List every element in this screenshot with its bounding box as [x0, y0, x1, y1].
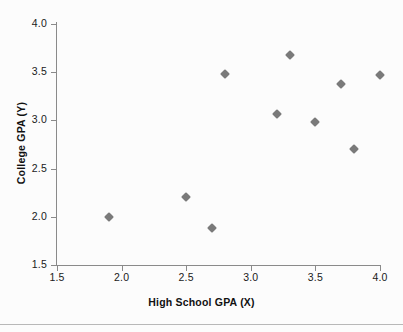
x-tick-label: 1.5	[40, 271, 74, 283]
y-tick-mark	[51, 120, 56, 121]
y-axis-line	[56, 22, 57, 266]
x-axis-title: High School GPA (X)	[0, 296, 403, 308]
x-tick-label: 2.0	[105, 271, 139, 283]
y-tick-mark	[51, 169, 56, 170]
y-tick-mark	[51, 72, 56, 73]
plot-area	[57, 24, 380, 265]
x-tick-label: 3.5	[298, 271, 332, 283]
y-axis-title: College GPA (Y)	[15, 68, 27, 218]
y-tick-label: 4.0	[17, 17, 47, 29]
y-tick-mark	[51, 24, 56, 25]
x-axis-line	[56, 265, 381, 266]
x-tick-label: 2.5	[169, 271, 203, 283]
footer-divider	[0, 324, 403, 325]
x-tick-label: 4.0	[363, 271, 397, 283]
scatter-plot-figure: 1.52.02.53.03.54.0 1.52.02.53.03.54.0 Co…	[0, 0, 403, 332]
x-tick-label: 3.0	[234, 271, 268, 283]
y-tick-mark	[51, 217, 56, 218]
y-tick-label: 1.5	[17, 258, 47, 270]
y-tick-mark	[51, 265, 56, 266]
